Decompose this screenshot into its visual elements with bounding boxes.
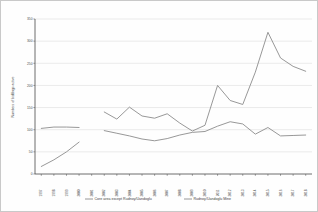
y-tick-label: 0 [31, 172, 33, 176]
chart-figure: 050100150200250300350 199719981999200020… [0, 0, 318, 212]
axes-group [35, 19, 312, 174]
series-line-1 [104, 32, 305, 131]
x-tick-label: 2017 [291, 189, 295, 196]
legend-group: Core area except Rudnoy/UandogluRudnoy/U… [85, 197, 231, 201]
x-tick-label: 2018 [304, 189, 308, 196]
x-tick-label: 2001 [90, 189, 94, 196]
y-axis-title: Numbers of biddings active [11, 76, 15, 117]
y-tick-labels-group: 050100150200250300350 [27, 17, 35, 176]
x-tick-label: 2016 [279, 189, 283, 196]
legend-label-2: Rudnoy/Uandoglu Mine [194, 197, 232, 201]
legend-label-1: Core area except Rudnoy/Uandoglu [95, 197, 152, 201]
x-tick-label: 2008 [178, 189, 182, 196]
y-axis-title-group: Numbers of biddings active [11, 76, 15, 117]
y-tick-label: 350 [27, 17, 33, 21]
gridlines-group [35, 19, 312, 152]
x-tick-label: 1999 [65, 189, 69, 196]
x-tick-label: 1997 [39, 189, 43, 196]
x-tick-label: 2005 [140, 189, 144, 196]
x-tick-label: 2012 [228, 189, 232, 196]
x-tick-label: 2015 [266, 189, 270, 196]
x-tick-label: 2003 [115, 189, 119, 196]
series-line-2 [41, 142, 79, 166]
y-tick-label: 50 [29, 150, 33, 154]
x-tick-label: 2002 [102, 189, 106, 196]
x-tick-label: 2014 [253, 189, 257, 196]
x-tick-label: 2000 [77, 189, 81, 196]
x-tick-label: 2007 [165, 189, 169, 196]
data-series-group [41, 32, 305, 166]
x-tick-labels-group: 1997199819992000200120022003200420052006… [39, 174, 307, 197]
x-tick-label: 1998 [52, 189, 56, 196]
x-tick-label: 2013 [241, 189, 245, 196]
y-tick-label: 200 [27, 84, 33, 88]
x-tick-label: 2006 [153, 189, 157, 196]
y-tick-label: 300 [27, 39, 33, 43]
line-chart-svg: 050100150200250300350 199719981999200020… [1, 1, 318, 212]
x-tick-label: 2011 [216, 189, 220, 196]
y-tick-label: 250 [27, 62, 33, 66]
x-tick-label: 2004 [128, 189, 132, 196]
y-tick-label: 150 [27, 106, 33, 110]
y-tick-label: 100 [27, 128, 33, 132]
x-tick-label: 2010 [203, 189, 207, 196]
series-line-1 [41, 127, 79, 128]
x-tick-label: 2009 [190, 189, 194, 196]
chart-plot-area: 050100150200250300350 199719981999200020… [1, 1, 318, 212]
